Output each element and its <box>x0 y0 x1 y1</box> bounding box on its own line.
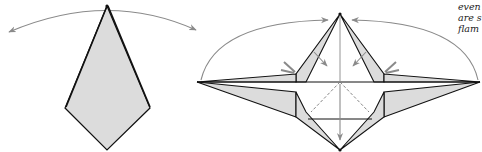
chevron-arrow-right <box>385 62 399 73</box>
kite-top-point <box>105 4 108 7</box>
left-wing-upper <box>197 74 296 82</box>
right-wing-lower <box>384 82 480 117</box>
opened-figure <box>197 12 480 151</box>
caption-line: are s <box>458 12 482 23</box>
lower-right-flap <box>340 92 384 150</box>
top-point <box>338 12 341 15</box>
caption-line: even <box>458 1 482 12</box>
caption-text-fragment: even are s flam <box>458 1 482 34</box>
left-wing-lower <box>197 82 296 117</box>
kite-figure <box>9 4 196 150</box>
valley-fold-left <box>311 82 340 112</box>
chevron-arrow-left <box>281 62 295 73</box>
lower-left-flap <box>296 92 340 150</box>
upper-right-flap <box>340 14 384 82</box>
right-wing-upper <box>384 74 480 82</box>
caption-line: flam <box>458 23 482 34</box>
valley-fold-right <box>340 82 369 112</box>
bottom-point <box>338 148 341 151</box>
upper-left-flap <box>296 14 340 82</box>
